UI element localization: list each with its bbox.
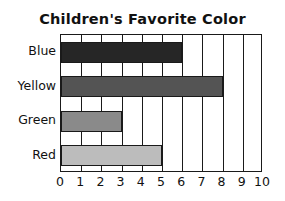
category-label-blue: Blue xyxy=(2,43,56,58)
x-tick-label-10: 10 xyxy=(254,174,270,189)
category-label-green: Green xyxy=(2,112,56,127)
plot-area xyxy=(60,34,262,172)
x-tick-label-0: 0 xyxy=(56,174,64,189)
x-tick-label-1: 1 xyxy=(76,174,84,189)
category-axis-labels: BlueYellowGreenRed xyxy=(0,34,56,172)
x-tick-label-3: 3 xyxy=(117,174,125,189)
bar-chart-figure: Children's Favorite Color BlueYellowGree… xyxy=(0,0,285,201)
value-axis-labels: 012345678910 xyxy=(60,174,262,194)
x-tick-label-5: 5 xyxy=(157,174,165,189)
x-tick-label-6: 6 xyxy=(177,174,185,189)
bar-yellow xyxy=(61,76,223,97)
x-tick-label-8: 8 xyxy=(218,174,226,189)
x-tick-label-2: 2 xyxy=(96,174,104,189)
x-tick-label-7: 7 xyxy=(197,174,205,189)
bar-red xyxy=(61,145,162,166)
x-tick-label-9: 9 xyxy=(238,174,246,189)
category-label-yellow: Yellow xyxy=(2,78,56,93)
category-label-red: Red xyxy=(2,147,56,162)
x-tick-label-4: 4 xyxy=(137,174,145,189)
bar-blue xyxy=(61,42,182,63)
bar-green xyxy=(61,111,122,132)
bars-layer xyxy=(61,35,261,171)
chart-title: Children's Favorite Color xyxy=(0,11,285,27)
